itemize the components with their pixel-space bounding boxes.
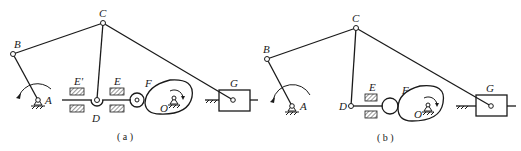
label-g: G	[230, 77, 238, 89]
link-ab	[267, 59, 292, 106]
joint-b	[11, 52, 16, 57]
rotation-arrow-o-icon	[170, 90, 183, 97]
guide-e-bottom	[365, 111, 377, 118]
caption-b: ( b )	[377, 132, 394, 144]
link-cd	[351, 28, 356, 106]
caption-a: ( a )	[117, 131, 133, 143]
label-e: E	[113, 75, 121, 87]
link-cd	[97, 23, 103, 99]
roller-f-pin	[135, 98, 139, 102]
joint-g	[489, 104, 494, 109]
figure-a: B C A E' E F D O G ( a )	[11, 7, 259, 143]
label-o: O	[160, 102, 168, 114]
joint-d	[95, 98, 100, 103]
cam-o	[145, 80, 192, 114]
label-d: D	[91, 112, 100, 124]
mechanism-diagram: B C A E' E F D O G ( a )	[0, 0, 521, 151]
label-o: O	[414, 108, 422, 120]
joint-d	[349, 104, 354, 109]
label-c: C	[99, 7, 107, 19]
guide-e-bottom	[110, 105, 124, 112]
rotation-arrow-a-icon	[273, 85, 310, 100]
joint-a	[36, 98, 41, 103]
link-bc	[267, 28, 356, 59]
figure-b: B C A D E F O G ( b )	[263, 12, 516, 144]
rotation-arrow-o-icon	[424, 97, 437, 104]
joint-g	[231, 98, 236, 103]
label-a: A	[44, 94, 52, 106]
ground-pivot-o	[422, 103, 434, 115]
link-bc	[13, 23, 103, 54]
joint-a	[290, 104, 295, 109]
ground-pivot-o	[168, 96, 180, 108]
joint-c	[101, 21, 106, 26]
joint-b	[265, 57, 270, 62]
guide-e-prime-top	[70, 88, 84, 95]
roller-f	[382, 98, 398, 114]
joint-c	[354, 26, 359, 31]
guide-e-top	[110, 88, 124, 95]
label-g: G	[486, 82, 494, 94]
link-ab	[13, 54, 38, 100]
label-b: B	[14, 38, 21, 50]
guide-e-prime-bottom	[70, 105, 84, 112]
label-e-prime: E'	[73, 75, 84, 87]
label-d: D	[338, 100, 347, 112]
label-e: E	[368, 81, 376, 93]
label-c: C	[352, 12, 360, 24]
label-b: B	[263, 43, 270, 55]
label-f: F	[401, 84, 409, 96]
label-a: A	[299, 100, 307, 112]
guide-e-top	[365, 94, 377, 101]
label-f: F	[144, 77, 152, 89]
